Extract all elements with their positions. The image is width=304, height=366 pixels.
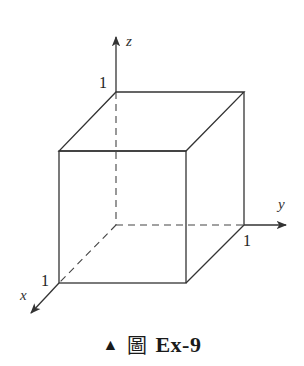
caption-id: Ex-9 xyxy=(155,332,201,358)
z-axis-label: z xyxy=(125,33,132,49)
figure-caption: ▲圖Ex-9 xyxy=(0,330,304,359)
cube-diagram: z y x 1 1 1 xyxy=(0,0,304,366)
triangle-marker-icon: ▲ xyxy=(103,336,119,354)
z-tick-1: 1 xyxy=(99,74,107,91)
caption-prefix: 圖 xyxy=(127,330,148,359)
y-axis-label: y xyxy=(276,196,285,212)
y-tick-1: 1 xyxy=(243,232,251,249)
x-tick-1: 1 xyxy=(41,272,49,289)
x-axis-label: x xyxy=(19,287,27,303)
